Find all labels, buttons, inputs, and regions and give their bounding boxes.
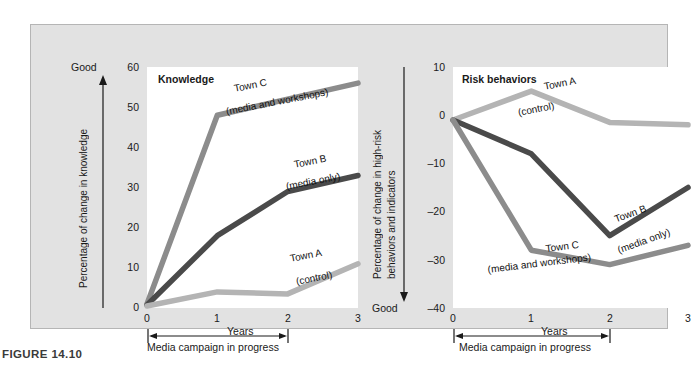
figure-panel: Town C (media and workshops) Town B (med… <box>30 24 668 329</box>
risk-campaign-label: Media campaign in progress <box>459 341 591 353</box>
figure-root: Town C (media and workshops) Town B (med… <box>0 0 697 385</box>
figure-caption: FIGURE 14.10 <box>2 348 82 360</box>
risk-campaign-bracket-svg <box>31 25 697 385</box>
